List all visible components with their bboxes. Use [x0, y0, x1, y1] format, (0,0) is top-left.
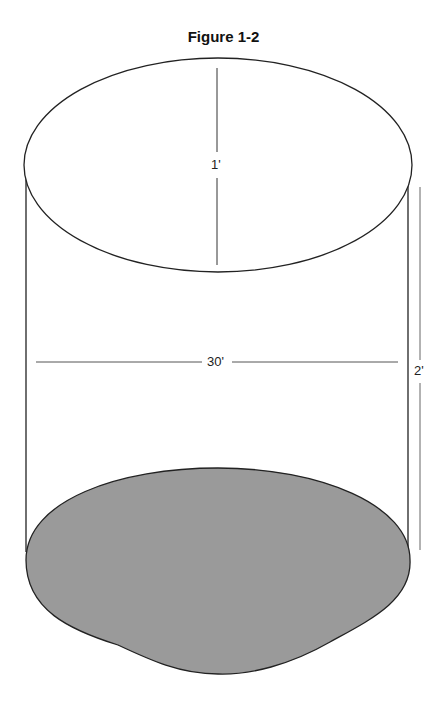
- width-label: 30': [205, 355, 226, 369]
- height-label: 2': [412, 364, 426, 378]
- bottom-base-shape: [26, 468, 410, 674]
- diameter-label: 1': [209, 158, 223, 172]
